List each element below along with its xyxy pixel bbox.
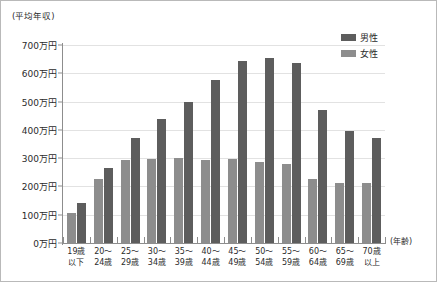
bar-male <box>211 80 220 243</box>
x-label-line1: 45〜 <box>228 247 246 256</box>
y-axis-tick-marks <box>1 45 63 243</box>
bar-group <box>170 45 197 243</box>
bar-female <box>201 160 210 243</box>
average-income-by-age-bar-chart: (平均年収) 700万円600万円500万円400万円300万円200万円100… <box>0 0 437 282</box>
bar-female <box>228 159 237 243</box>
bar-female <box>362 183 371 243</box>
x-axis-category-label: 60〜64歳 <box>305 246 332 268</box>
x-label-line1: 70歳 <box>362 247 380 256</box>
x-label-line2: 64歳 <box>305 257 332 268</box>
legend-swatch-male <box>341 34 356 41</box>
legend-label: 女性 <box>360 47 378 60</box>
x-label-line2: 24歳 <box>90 257 117 268</box>
bar-group <box>197 45 224 243</box>
x-axis-title: (年齢) <box>390 235 412 246</box>
bar-female <box>121 160 130 243</box>
x-label-line1: 55〜 <box>282 247 300 256</box>
x-label-line2: 以上 <box>358 257 385 268</box>
bar-male <box>238 61 247 243</box>
x-axis-tick-mark <box>90 237 91 243</box>
x-axis-tick-mark <box>63 237 64 243</box>
bar-male <box>104 168 113 243</box>
legend-item: 男性 <box>341 31 378 44</box>
x-axis-tick-mark <box>117 237 118 243</box>
bar-group <box>63 45 90 243</box>
x-axis-tick-mark <box>305 237 306 243</box>
x-axis-tick-mark <box>251 237 252 243</box>
chart-legend: 男性女性 <box>341 31 378 63</box>
bar-female <box>255 162 264 243</box>
x-axis-category-label: 20〜24歳 <box>90 246 117 268</box>
plot-area <box>63 45 385 243</box>
bar-male <box>345 131 354 243</box>
x-axis-category-label: 55〜59歳 <box>278 246 305 268</box>
x-label-line2: 59歳 <box>278 257 305 268</box>
legend-swatch-female <box>341 50 356 57</box>
x-axis-tick-mark <box>170 237 171 243</box>
x-axis-category-label: 70歳以上 <box>358 246 385 268</box>
x-axis-tick-mark <box>385 237 386 243</box>
x-label-line1: 65〜 <box>336 247 354 256</box>
x-axis-category-label: 50〜54歳 <box>251 246 278 268</box>
bar-group <box>144 45 171 243</box>
bar-female <box>147 159 156 243</box>
x-label-line2: 69歳 <box>331 257 358 268</box>
bar-female <box>308 179 317 243</box>
x-label-line1: 40〜 <box>201 247 219 256</box>
bar-male <box>292 63 301 243</box>
x-axis-category-label: 30〜34歳 <box>144 246 171 268</box>
x-label-line2: 以下 <box>63 257 90 268</box>
bar-male <box>265 58 274 243</box>
bar-group <box>117 45 144 243</box>
x-label-line1: 60〜 <box>309 247 327 256</box>
bar-female <box>94 179 103 243</box>
x-label-line1: 50〜 <box>255 247 273 256</box>
x-axis-category-label: 25〜29歳 <box>117 246 144 268</box>
x-label-line1: 20〜 <box>94 247 112 256</box>
x-axis-tick-mark <box>331 237 332 243</box>
x-axis-category-label: 40〜44歳 <box>197 246 224 268</box>
x-label-line2: 39歳 <box>170 257 197 268</box>
x-label-line2: 44歳 <box>197 257 224 268</box>
x-label-line2: 54歳 <box>251 257 278 268</box>
x-label-line1: 30〜 <box>148 247 166 256</box>
plot-inner <box>63 45 385 243</box>
bar-male <box>184 102 193 243</box>
bar-female <box>335 183 344 243</box>
x-label-line2: 49歳 <box>224 257 251 268</box>
bar-female <box>174 158 183 243</box>
bar-male <box>157 119 166 243</box>
x-axis-tick-mark <box>358 237 359 243</box>
x-axis-category-label: 19歳以下 <box>63 246 90 268</box>
x-axis-category-labels: 19歳以下20〜24歳25〜29歳30〜34歳35〜39歳40〜44歳45〜49… <box>63 246 385 280</box>
x-axis-category-label: 65〜69歳 <box>331 246 358 268</box>
bar-group <box>224 45 251 243</box>
bar-group <box>90 45 117 243</box>
x-axis-tick-mark <box>278 237 279 243</box>
x-label-line1: 19歳 <box>67 247 85 256</box>
x-axis-tick-marks <box>63 237 385 244</box>
bar-male <box>131 138 140 243</box>
x-label-line1: 25〜 <box>121 247 139 256</box>
bar-male <box>372 138 381 243</box>
bar-group <box>251 45 278 243</box>
legend-label: 男性 <box>360 31 378 44</box>
x-label-line1: 35〜 <box>175 247 193 256</box>
bar-group <box>278 45 305 243</box>
x-label-line2: 29歳 <box>117 257 144 268</box>
x-axis-tick-mark <box>197 237 198 243</box>
x-axis-tick-mark <box>144 237 145 243</box>
y-axis-title: (平均年収) <box>12 9 55 21</box>
bar-group <box>305 45 332 243</box>
x-axis-tick-mark <box>224 237 225 243</box>
bar-group <box>358 45 385 243</box>
bar-female <box>282 164 291 243</box>
bar-group <box>331 45 358 243</box>
bar-male <box>318 110 327 243</box>
legend-item: 女性 <box>341 47 378 60</box>
x-axis-category-label: 35〜39歳 <box>170 246 197 268</box>
x-label-line2: 34歳 <box>144 257 171 268</box>
x-axis-category-label: 45〜49歳 <box>224 246 251 268</box>
